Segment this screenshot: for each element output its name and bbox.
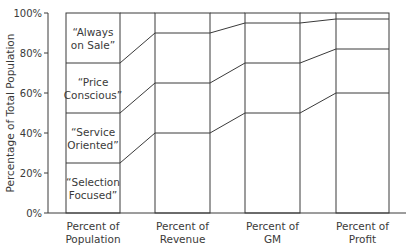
x-category-label: GM: [264, 233, 281, 245]
connector-line: [210, 63, 245, 83]
y-tick-label: 80%: [20, 48, 42, 59]
connector-line: [300, 19, 336, 23]
x-category-label: Profit: [349, 233, 376, 245]
connector-line: [120, 133, 155, 163]
x-category-label: Population: [65, 233, 120, 245]
connector-line: [300, 49, 336, 63]
segment-label: “Selection: [66, 176, 120, 188]
x-category-label: Percent of: [336, 220, 389, 232]
connector-line: [210, 113, 245, 133]
connector-line: [120, 83, 155, 113]
y-tick-label: 0%: [26, 208, 42, 219]
connector-line: [120, 33, 155, 63]
y-tick-label: 60%: [20, 88, 42, 99]
segment-label: “Always: [73, 26, 114, 38]
x-category-label: Percent of: [156, 220, 209, 232]
segment-label: “Service: [71, 126, 115, 138]
segment-label: Focused”: [69, 189, 118, 201]
bar-outline: [336, 13, 389, 213]
segment-label: Conscious”: [64, 89, 123, 101]
stacked-percent-chart: 0%20%40%60%80%100%Percentage of Total Po…: [0, 0, 413, 250]
x-category-label: Percent of: [246, 220, 299, 232]
y-tick-label: 40%: [20, 128, 42, 139]
x-category-label: Revenue: [160, 233, 206, 245]
bar-outline: [155, 13, 210, 213]
y-axis-title: Percentage of Total Population: [4, 34, 16, 193]
segment-label: Oriented”: [67, 139, 118, 151]
x-category-label: Percent of: [67, 220, 120, 232]
segment-label: on Sale”: [71, 39, 115, 51]
y-tick-label: 20%: [20, 168, 42, 179]
connector-line: [210, 23, 245, 33]
connector-line: [300, 93, 336, 113]
y-tick-label: 100%: [13, 8, 42, 19]
segment-label: “Price: [78, 76, 109, 88]
